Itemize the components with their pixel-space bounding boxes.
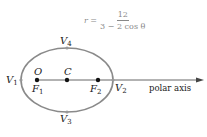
label-f2: F2 (90, 84, 101, 96)
formula-numerator: 12 (117, 10, 129, 21)
label-center-c: C (64, 67, 72, 77)
formula-fraction: 12 3 − 2 cos θ (100, 10, 145, 31)
focus-f2-point (96, 78, 100, 82)
formula-denominator: 3 − 2 cos θ (100, 21, 145, 31)
label-origin-o: O (34, 67, 42, 77)
label-f1: F1 (32, 84, 43, 96)
arrowhead-icon (196, 78, 204, 83)
label-v1: V1 (6, 75, 18, 87)
vertex-v1-point (19, 78, 22, 81)
label-v2: V2 (115, 83, 127, 95)
polar-ellipse-figure: r = 12 3 − 2 cos θ V4 V3 V1 V2 O C F1 F2… (0, 0, 207, 137)
focus-f1-point (35, 78, 39, 82)
polar-equation: r = 12 3 − 2 cos θ (84, 10, 145, 31)
center-c-point (65, 78, 69, 82)
formula-lhs: r = (84, 16, 97, 25)
label-polar-axis: polar axis (149, 84, 191, 93)
label-v4: V4 (60, 36, 72, 48)
label-v3: V3 (60, 114, 72, 126)
